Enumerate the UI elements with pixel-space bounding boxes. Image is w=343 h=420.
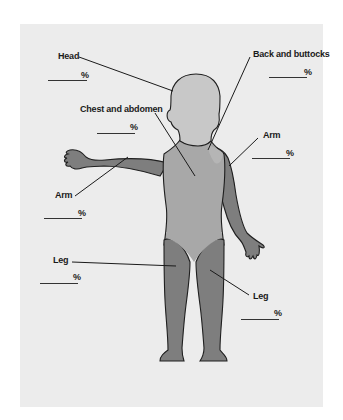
back-percent-blank[interactable] (269, 77, 307, 78)
right-arm-leader-line (229, 138, 258, 166)
right-arm-label: Arm (263, 130, 280, 140)
chest-and-abdomen-label: Chest and abdomen (80, 104, 163, 114)
right-leg-percent-blank[interactable] (241, 319, 279, 320)
head-leader-line (79, 57, 173, 91)
head-region (167, 74, 220, 146)
left-leg-percent-blank[interactable] (40, 283, 78, 284)
left-arm-label: Arm (55, 190, 72, 200)
right-leg-region (196, 239, 227, 361)
left-arm-region (64, 150, 168, 176)
right-leg-label: Leg (253, 291, 268, 301)
child-body-figure (0, 0, 343, 420)
left-arm-percent-symbol: % (78, 208, 86, 218)
chest-percent-symbol: % (130, 122, 138, 132)
right-arm-percent-symbol: % (286, 148, 294, 158)
left-leg-percent-symbol: % (73, 272, 81, 282)
back-and-buttocks-label: Back and buttocks (253, 49, 330, 59)
left-leg-leader-line (72, 262, 176, 266)
right-leg-percent-symbol: % (274, 308, 282, 318)
left-leg-region (160, 239, 190, 361)
back-percent-symbol: % (304, 67, 312, 77)
left-leg-label: Leg (53, 255, 68, 265)
head-percent-symbol: % (81, 70, 89, 80)
head-percent-blank[interactable] (48, 80, 87, 81)
left-arm-percent-blank[interactable] (44, 218, 82, 219)
right-arm-percent-blank[interactable] (252, 158, 290, 159)
chest-percent-blank[interactable] (97, 133, 135, 134)
head-label: Head (58, 51, 79, 61)
